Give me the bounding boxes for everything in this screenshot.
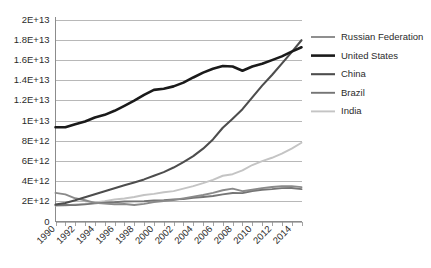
x-axis-tick-label: 1996 [93,223,116,246]
y-axis-tick-label: 1.4E+13 [14,74,50,85]
y-axis-tick-label: 1.6E+13 [14,54,50,65]
series-line-china [56,40,302,204]
y-axis-tick-label: 4E+12 [22,175,50,186]
y-axis-tick-label: 2E+13 [22,14,50,25]
line-chart: 02E+124E+126E+128E+121E+131.2E+131.4E+13… [0,0,431,268]
x-axis-tick-label: 1998 [113,223,136,246]
gridlines-group [56,21,302,223]
x-axis-tick-label: 1994 [74,223,97,246]
x-axis-tick-label: 1990 [34,223,57,246]
series-line-united-states [56,47,302,127]
x-axis-tick-label: 2004 [172,223,195,246]
x-axis-tick-label: 2000 [133,223,156,246]
legend-label-china: China [341,68,367,79]
x-axis-tick-label: 1992 [54,223,77,246]
x-axis-tick-label: 2006 [192,223,215,246]
chart-container: 02E+124E+126E+128E+121E+131.2E+131.4E+13… [0,0,431,268]
y-axis-tick-label: 6E+12 [22,155,50,166]
x-axis-tick-label: 2008 [211,223,234,246]
y-axis-tick-label: 1.8E+13 [14,34,50,45]
legend-label-brazil: Brazil [341,87,365,98]
legend: Russian FederationUnited StatesChinaBraz… [311,31,423,116]
x-axis-tick-label: 2002 [152,223,175,246]
y-axis-tick-label: 8E+12 [22,135,50,146]
x-axis-tick-label: 2014 [270,223,293,246]
legend-label-russian-federation: Russian Federation [341,31,423,42]
x-axis-tick-labels: 1990199219941996199820002002200420062008… [34,223,293,246]
y-axis-tick-label: 1E+13 [22,115,50,126]
y-axis-tick-labels: 02E+124E+126E+128E+121E+131.2E+131.4E+13… [14,14,50,227]
legend-label-united-states: United States [341,50,398,61]
data-series-group [56,40,302,205]
y-axis-tick-label: 1.2E+13 [14,94,50,105]
x-axis-tick-label: 2012 [251,223,274,246]
x-axis-tick-label: 2010 [231,223,254,246]
legend-label-india: India [341,105,362,116]
y-axis-tick-label: 2E+12 [22,195,50,206]
series-line-india [56,143,302,206]
